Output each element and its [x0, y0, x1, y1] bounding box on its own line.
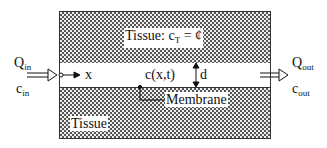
inflow-arrow-icon — [27, 69, 57, 81]
diagram-arrows — [0, 0, 327, 148]
membrane-pointer-icon — [138, 85, 165, 100]
outflow-arrow-icon — [260, 69, 288, 81]
x-axis-arrow-icon — [59, 72, 80, 78]
width-arrow-icon — [193, 63, 199, 87]
